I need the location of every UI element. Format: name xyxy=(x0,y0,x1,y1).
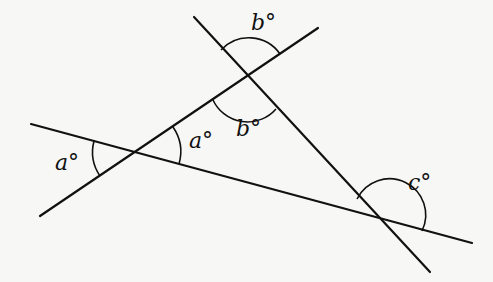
angle-arc-a-right xyxy=(173,127,181,164)
angle-label-c: c° xyxy=(408,172,431,194)
angle-arc-b-top xyxy=(221,38,280,54)
steep-line xyxy=(194,17,430,272)
angle-label-b-top: b° xyxy=(251,12,276,34)
angle-label-a-right: a° xyxy=(189,130,213,152)
angle-label-a-left: a° xyxy=(55,152,79,174)
angle-label-b-bottom: b° xyxy=(236,118,261,140)
upper-line xyxy=(40,28,318,216)
diagram-canvas xyxy=(0,0,493,282)
angle-arc-a-left xyxy=(93,141,100,176)
